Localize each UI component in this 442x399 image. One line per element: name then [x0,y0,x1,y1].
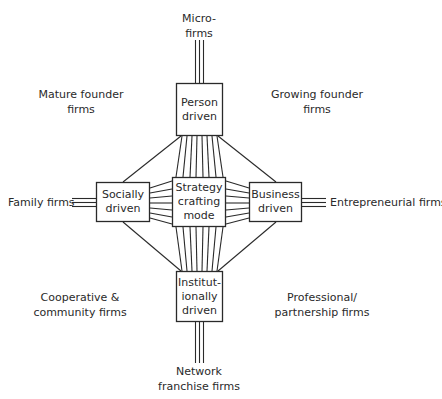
growing-founder-firms-label: Growing founder firms [262,87,372,117]
mature-founder-line-1: Mature founder [31,87,131,102]
fan-strategy-business [226,181,249,224]
entrepreneurial-firms-label: Entrepreneurial firms [330,195,440,210]
strategy-crafting-label: Strategy crafting mode [173,178,225,226]
connector-business-institutional [218,222,276,271]
socially-driven-line-1: Socially [102,188,144,202]
micro-firms-line-2: firms [159,26,239,41]
family-firms-label: Family firms [8,195,70,210]
institutionally-driven-label: Institut- ionally driven [177,272,222,321]
mature-founder-firms-label: Mature founder firms [31,87,131,117]
strategy-line-1: Strategy [175,181,222,195]
person-driven-line-2: driven [182,110,217,124]
network-line-2: franchise firms [139,379,259,394]
cooperative-community-firms-label: Cooperative & community firms [25,290,135,320]
connector-person-business [218,136,276,182]
professional-partnership-firms-label: Professional/ partnership firms [266,290,378,320]
micro-firms-link [196,40,204,83]
person-driven-label: Person driven [177,84,222,135]
network-franchise-firms-label: Network franchise firms [139,364,259,394]
institutionally-line-2: ionally [181,290,217,304]
institutionally-line-1: Institut- [178,276,221,290]
micro-firms-label: Micro- firms [159,11,239,41]
person-driven-line-1: Person [181,96,218,110]
family-firms-link [72,199,96,207]
institutionally-line-3: driven [182,304,217,318]
strategy-line-3: mode [183,209,214,223]
connector-socially-institutional [123,222,181,271]
professional-line-2: partnership firms [266,305,378,320]
connector-person-socially [123,136,181,182]
business-driven-line-1: Business [251,188,300,202]
fan-socially-strategy [150,181,172,224]
fan-strategy-institutional [176,227,223,271]
family-firms-text: Family firms [8,195,70,210]
socially-driven-label: Socially driven [97,183,149,221]
business-driven-label: Business driven [250,183,301,221]
socially-driven-line-2: driven [106,202,141,216]
network-firms-link [196,322,204,363]
entrepreneurial-firms-link [302,199,326,207]
growing-founder-line-2: firms [262,102,372,117]
cooperative-line-2: community firms [25,305,135,320]
growing-founder-line-1: Growing founder [262,87,372,102]
fan-person-strategy [176,136,223,177]
professional-line-1: Professional/ [266,290,378,305]
entrepreneurial-firms-text: Entrepreneurial firms [330,195,440,210]
strategy-line-2: crafting [178,195,220,209]
micro-firms-line-1: Micro- [159,11,239,26]
mature-founder-line-2: firms [31,102,131,117]
network-line-1: Network [139,364,259,379]
business-driven-line-2: driven [258,202,293,216]
cooperative-line-1: Cooperative & [25,290,135,305]
